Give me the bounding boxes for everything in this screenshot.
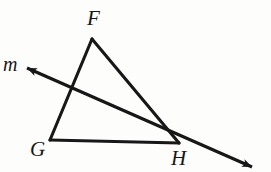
segment-fg — [50, 39, 92, 140]
line-label-m: m — [3, 54, 17, 74]
vertex-label-g: G — [30, 139, 45, 160]
vertex-label-f: F — [87, 8, 100, 29]
segment-gh — [50, 140, 179, 143]
vertex-label-h: H — [171, 148, 186, 169]
segment-fh — [92, 39, 179, 143]
geometry-diagram: F m G H — [0, 0, 271, 172]
